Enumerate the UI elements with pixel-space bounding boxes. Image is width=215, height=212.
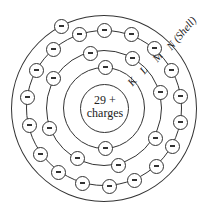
- electron-m: [51, 165, 66, 180]
- electron-m: [147, 41, 162, 56]
- electron-m: [165, 139, 180, 154]
- electron-m: [33, 147, 48, 162]
- nucleus-label: 29 + charges: [81, 94, 129, 120]
- electron-l: [148, 131, 163, 146]
- electron-m: [20, 90, 35, 105]
- atom-diagram: 29 + charges K L M N (Shell): [0, 0, 215, 212]
- electron-m: [127, 173, 142, 188]
- electron-m: [173, 115, 188, 130]
- nucleus-charges-word: charges: [81, 107, 129, 120]
- electron-l: [70, 151, 85, 166]
- electron-m: [29, 63, 44, 78]
- electron-m: [173, 89, 188, 104]
- electron-m: [72, 27, 87, 42]
- electron-m: [124, 27, 139, 42]
- electron-m: [46, 42, 61, 57]
- shell-label-n: N (Shell): [164, 14, 199, 52]
- electron-l: [42, 121, 57, 136]
- electron-m: [149, 159, 164, 174]
- electron-m: [75, 176, 90, 191]
- electron-l: [125, 51, 140, 66]
- electron-m: [97, 23, 112, 38]
- electron-m: [22, 118, 37, 133]
- electron-k: [98, 141, 113, 156]
- electron-m: [164, 63, 179, 78]
- electron-l: [46, 71, 61, 86]
- electron-n: [54, 19, 69, 34]
- electron-l: [111, 158, 126, 173]
- electron-m: [102, 179, 117, 194]
- electron-k: [98, 60, 113, 75]
- electron-l: [83, 46, 98, 61]
- electron-l: [153, 85, 168, 100]
